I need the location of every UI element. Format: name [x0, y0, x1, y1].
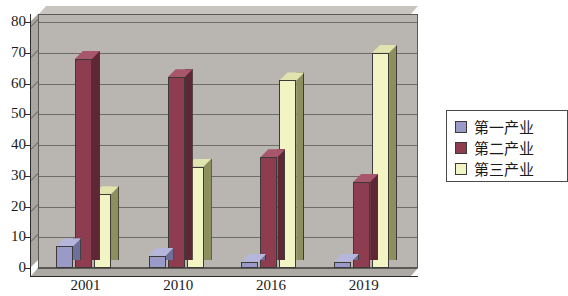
bar-2016-series-0[interactable] — [241, 262, 258, 268]
y-axis-tick-mark — [25, 53, 30, 54]
x-axis-tick-label: 2016 — [243, 277, 299, 294]
y-axis-tick-label: 60 — [0, 76, 26, 91]
bar-side-face — [296, 72, 304, 260]
y-axis-tick-mark — [25, 237, 30, 238]
bar-2010-series-1[interactable] — [168, 77, 185, 268]
legend-item[interactable]: 第三产业 — [455, 158, 567, 179]
x-axis-tick-label: 2010 — [150, 277, 206, 294]
x-axis-tick-label: 2019 — [336, 277, 392, 294]
y-axis-tick-mark — [25, 114, 30, 115]
bar-side-face — [204, 159, 212, 260]
bar-2001-series-1[interactable] — [75, 59, 92, 268]
bar-side-face — [185, 69, 193, 260]
x-axis-tick-label: 2001 — [57, 277, 113, 294]
legend-label: 第二产业 — [474, 137, 534, 158]
bar-front-face — [75, 59, 92, 268]
legend-swatch-icon — [455, 163, 467, 175]
bar-side-face — [92, 51, 100, 260]
legend-item[interactable]: 第二产业 — [455, 137, 567, 158]
bar-front-face — [241, 262, 258, 268]
bar-side-face — [389, 45, 397, 260]
legend-label: 第三产业 — [474, 158, 534, 179]
bar-front-face — [168, 77, 185, 268]
chart-legend: 第一产业 第二产业 第三产业 — [446, 110, 568, 182]
bar-side-face — [111, 186, 119, 260]
y-axis-tick-label: 10 — [0, 229, 26, 244]
bar-front-face — [149, 256, 166, 268]
legend-swatch-icon — [455, 142, 467, 154]
y-axis-tick-label: 30 — [0, 168, 26, 183]
bar-2001-series-0[interactable] — [56, 246, 73, 268]
y-axis-tick-label: 40 — [0, 137, 26, 152]
y-axis-tick-label: 0 — [0, 260, 26, 275]
y-axis-tick-label: 20 — [0, 199, 26, 214]
bar-2010-series-0[interactable] — [149, 256, 166, 268]
bar-front-face — [56, 246, 73, 268]
y-axis-tick-label: 80 — [0, 14, 26, 29]
y-axis-tick-mark — [25, 84, 30, 85]
bar-2016-series-1[interactable] — [260, 157, 277, 268]
legend-swatch-icon — [455, 121, 467, 133]
y-axis-line — [30, 14, 31, 277]
legend-label: 第一产业 — [474, 116, 534, 137]
y-axis-tick-mark — [25, 207, 30, 208]
bar-side-face — [277, 149, 285, 260]
legend-item[interactable]: 第一产业 — [455, 116, 567, 137]
y-axis-tick-mark — [25, 268, 30, 269]
y-axis-tick-label: 50 — [0, 106, 26, 121]
y-axis-tick-mark — [25, 145, 30, 146]
bar-front-face — [260, 157, 277, 268]
gridline — [39, 22, 417, 23]
bar-2019-series-0[interactable] — [334, 262, 351, 268]
bar-side-face — [370, 174, 378, 260]
y-axis-tick-mark — [25, 176, 30, 177]
bar-front-face — [334, 262, 351, 268]
y-axis-tick-label: 70 — [0, 45, 26, 60]
y-axis-tick-mark — [25, 22, 30, 23]
